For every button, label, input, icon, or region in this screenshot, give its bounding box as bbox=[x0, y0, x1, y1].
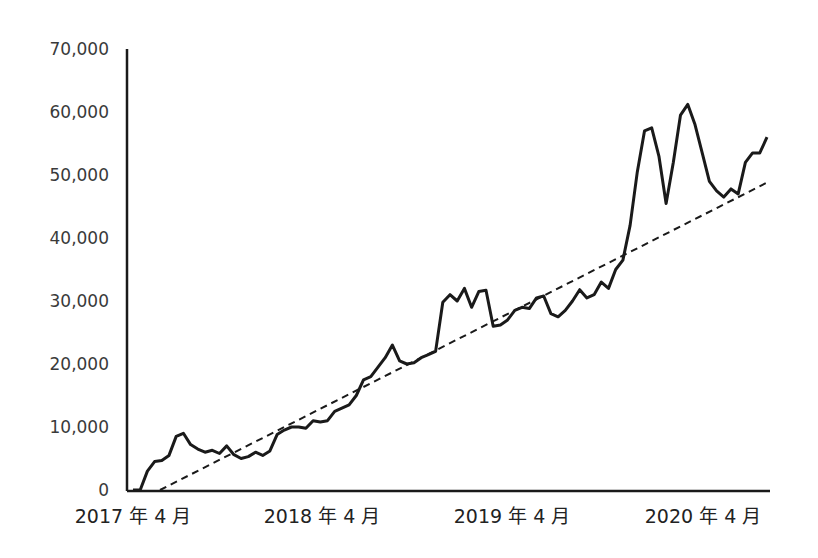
y-axis-labels: 010,00020,00030,00040,00050,00060,00070,… bbox=[50, 39, 109, 500]
y-tick-label: 30,000 bbox=[50, 291, 109, 311]
y-tick-label: 10,000 bbox=[50, 417, 109, 437]
x-tick-label: 2017 年 4 月 bbox=[75, 505, 192, 527]
y-tick-label: 60,000 bbox=[50, 102, 109, 122]
y-tick-label: 40,000 bbox=[50, 228, 109, 248]
x-axis-labels: 2017 年 4 月2018 年 4 月2019 年 4 月2020 年 4 月 bbox=[75, 505, 762, 527]
y-tick-label: 50,000 bbox=[50, 165, 109, 185]
x-tick-label: 2020 年 4 月 bbox=[645, 505, 762, 527]
x-tick-label: 2018 年 4 月 bbox=[264, 505, 381, 527]
price-line bbox=[133, 104, 767, 490]
y-tick-label: 20,000 bbox=[50, 354, 109, 374]
trend-line-dashed bbox=[160, 183, 767, 490]
line-chart: 010,00020,00030,00040,00050,00060,00070,… bbox=[0, 0, 818, 558]
y-tick-label: 0 bbox=[98, 480, 109, 500]
y-tick-label: 70,000 bbox=[50, 39, 109, 59]
x-tick-label: 2019 年 4 月 bbox=[454, 505, 571, 527]
